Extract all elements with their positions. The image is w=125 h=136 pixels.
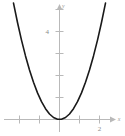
x-axis-arrow-icon [110, 117, 116, 123]
x-tick-label-2: 2 [98, 125, 102, 133]
parabola-chart-figure: 4 2 x y [0, 0, 125, 136]
plot-area: 4 2 x y [0, 0, 125, 136]
x-axis-label: x [117, 116, 121, 122]
y-axis-label: y [61, 3, 65, 9]
y-tick-label-4: 4 [46, 28, 50, 36]
